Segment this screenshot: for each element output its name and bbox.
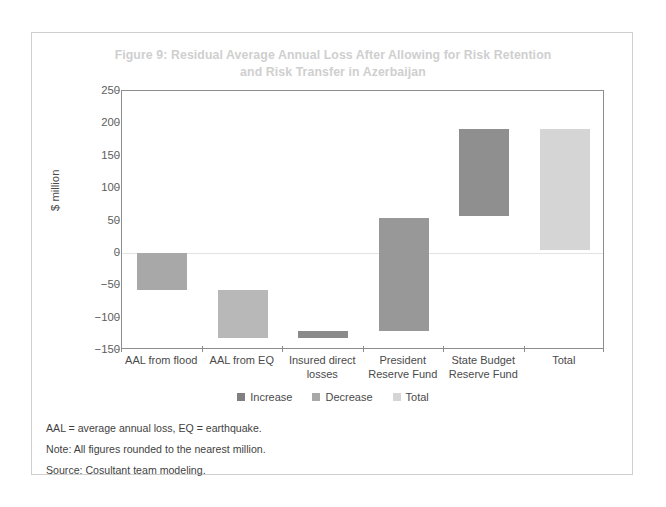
x-tick-label-line: AAL from flood [121, 354, 202, 368]
x-tick-label-line: President [363, 354, 444, 368]
x-tick-label: AAL from EQ [202, 354, 283, 368]
waterfall-bar [540, 129, 590, 249]
x-tick-mark [282, 346, 283, 352]
figure-title: Figure 9: Residual Average Annual Loss A… [72, 47, 594, 81]
zero-baseline [122, 253, 603, 254]
x-tick-label: Total [524, 354, 605, 368]
y-tick-label: −150 [74, 343, 120, 355]
figure-title-line-1: Figure 9: Residual Average Annual Loss A… [72, 47, 594, 64]
x-tick-label: State BudgetReserve Fund [443, 354, 524, 381]
plot-area [121, 90, 604, 349]
legend-item[interactable]: Increase [237, 391, 292, 403]
x-tick-mark [363, 346, 364, 352]
x-tick-label: Insured directlosses [282, 354, 363, 381]
y-tick-label: 250 [74, 84, 120, 96]
legend-item[interactable]: Total [393, 391, 429, 403]
y-tick-mark [116, 284, 120, 285]
legend-swatch-icon [312, 393, 320, 401]
y-tick-mark [116, 122, 120, 123]
waterfall-bar [298, 331, 348, 337]
x-tick-mark [603, 346, 604, 352]
legend-label: Total [406, 391, 429, 403]
legend-swatch-icon [393, 393, 401, 401]
note-line: AAL = average annual loss, EQ = earthqua… [46, 418, 606, 439]
x-tick-label-line: losses [282, 368, 363, 382]
figure-notes: AAL = average annual loss, EQ = earthqua… [46, 418, 606, 481]
y-tick-mark [116, 349, 120, 350]
y-tick-mark [116, 90, 120, 91]
x-tick-label-line: Total [524, 354, 605, 368]
y-tick-label: −100 [74, 311, 120, 323]
y-tick-mark [116, 155, 120, 156]
y-tick-mark [116, 187, 120, 188]
x-tick-label-line: Reserve Fund [443, 368, 524, 382]
figure-card: Figure 9: Residual Average Annual Loss A… [31, 32, 633, 475]
y-tick-label: 100 [74, 181, 120, 193]
y-tick-mark [116, 252, 120, 253]
y-tick-mark [116, 220, 120, 221]
y-axis-tick-labels: 250200150100500−50−100−150 [64, 90, 120, 349]
legend-label: Decrease [325, 391, 372, 403]
chart-legend: IncreaseDecreaseTotal [32, 391, 634, 403]
x-tick-mark [121, 346, 122, 352]
legend-label: Increase [250, 391, 292, 403]
y-tick-label: −50 [74, 278, 120, 290]
y-tick-label: 200 [74, 116, 120, 128]
waterfall-bar [137, 253, 187, 291]
x-tick-mark [202, 346, 203, 352]
y-tick-label: 50 [74, 214, 120, 226]
y-tick-mark [116, 317, 120, 318]
waterfall-bar [218, 290, 268, 337]
x-tick-label-line: State Budget [443, 354, 524, 368]
x-tick-label-line: Insured direct [282, 354, 363, 368]
x-tick-label: AAL from flood [121, 354, 202, 368]
x-tick-mark [524, 346, 525, 352]
y-axis-title: $ million [49, 170, 61, 211]
x-axis-tick-labels: AAL from floodAAL from EQInsured directl… [121, 352, 604, 388]
waterfall-bar [459, 129, 509, 216]
x-tick-label: PresidentReserve Fund [363, 354, 444, 381]
y-tick-label: 150 [74, 149, 120, 161]
x-tick-mark [443, 346, 444, 352]
legend-swatch-icon [237, 393, 245, 401]
x-tick-label-line: Reserve Fund [363, 368, 444, 382]
legend-item[interactable]: Decrease [312, 391, 372, 403]
waterfall-bar [379, 218, 429, 331]
note-line: Note: All figures rounded to the nearest… [46, 439, 606, 460]
x-tick-label-line: AAL from EQ [202, 354, 283, 368]
y-tick-label: 0 [74, 246, 120, 258]
note-line: Source: Cosultant team modeling. [46, 460, 606, 481]
figure-title-line-2: and Risk Transfer in Azerbaijan [72, 64, 594, 81]
